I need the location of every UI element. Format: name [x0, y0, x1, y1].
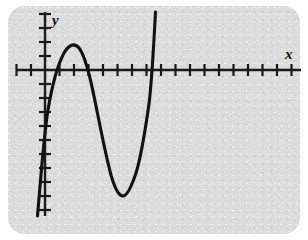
- x-axis-label: x: [284, 46, 293, 62]
- figure-root: y x: [0, 0, 308, 240]
- y-axis-label: y: [50, 12, 59, 28]
- polynomial-curve: [38, 12, 156, 216]
- coordinate-graph: y x: [0, 0, 308, 240]
